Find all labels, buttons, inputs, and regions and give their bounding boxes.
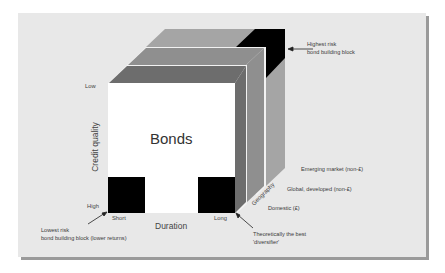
lowest-risk-annotation: Lowest risk bond building block (lower r… [41, 227, 127, 242]
highest-risk-annotation: Highest risk bond building block [307, 41, 355, 56]
best-diversifier-block [198, 177, 235, 213]
geography-global-label: Global, developed (non-£) [287, 186, 352, 194]
geography-domestic-label: Domestic (£) [268, 205, 300, 213]
diagram-title: Bonds [150, 130, 193, 147]
geography-emerging-label: Emerging market (non-£) [301, 166, 363, 174]
credit-low-label: Low [85, 83, 96, 89]
duration-axis-label: Duration [155, 221, 187, 231]
lowest-risk-arrow [88, 213, 105, 224]
credit-high-label: High [87, 203, 99, 209]
duration-long-label: Long [214, 215, 227, 221]
best-diversifier-annotation: Theoretically the best 'diversifier' [253, 231, 306, 246]
credit-quality-axis-label: Credit quality [90, 122, 100, 172]
duration-short-label: Short [112, 215, 126, 221]
lowest-risk-block [108, 177, 145, 213]
best-diversifier-arrow [238, 215, 253, 228]
